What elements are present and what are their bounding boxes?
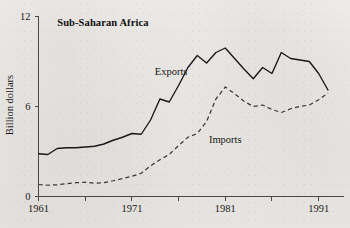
- y-tick-label: 12: [20, 11, 31, 22]
- imports-series-label: Imports: [209, 134, 242, 145]
- y-tick-label: 6: [25, 101, 30, 112]
- axes-group: [35, 17, 345, 201]
- y-axis-tick-labels: 0612: [20, 11, 31, 202]
- x-tick-label: 1971: [121, 203, 142, 214]
- x-tick-label: 1961: [28, 203, 49, 214]
- panel-title: Sub-Saharan Africa: [57, 17, 149, 28]
- y-tick-label: 0: [25, 191, 30, 202]
- imports-line-series: [39, 87, 329, 185]
- x-axis-tick-marks: [39, 197, 319, 201]
- chart-figure: 0612 1961197119811991 Billion dollars Su…: [0, 0, 350, 228]
- exports-line-series: [39, 48, 329, 155]
- y-axis-title: Billion dollars: [4, 75, 15, 135]
- y-axis-tick-marks: [35, 17, 39, 197]
- line-chart-svg: 0612 1961197119811991 Billion dollars Su…: [0, 0, 350, 228]
- x-axis-tick-labels: 1961197119811991: [28, 203, 329, 214]
- x-tick-label: 1991: [308, 203, 329, 214]
- exports-series-label: Exports: [155, 66, 188, 77]
- x-tick-label: 1981: [215, 203, 236, 214]
